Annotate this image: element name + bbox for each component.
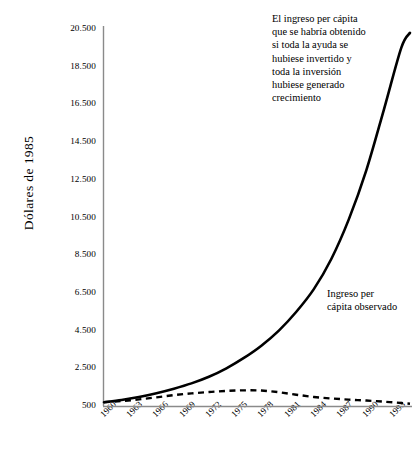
chart-figure: Dólares de 1985 5002.5004.5006.5008.5001… bbox=[0, 0, 417, 458]
series-line-observed bbox=[104, 390, 410, 403]
annotation-observed: Ingreso per cápita observado bbox=[327, 287, 417, 313]
annotation-counterfactual: El ingreso per cápita que se habría obte… bbox=[272, 12, 407, 104]
